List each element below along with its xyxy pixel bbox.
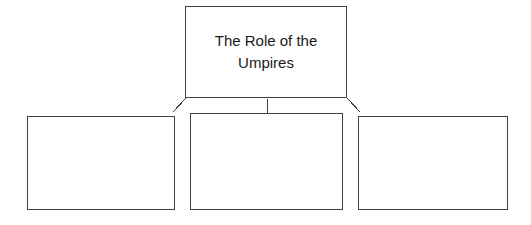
diagram-canvas: The Role of the Umpires [0, 0, 531, 225]
connector-root-to-branch-1 [173, 99, 186, 113]
node-branch-3[interactable] [358, 116, 508, 210]
connector-root-to-branch-3 [348, 99, 361, 113]
node-root[interactable]: The Role of the Umpires [185, 6, 347, 98]
node-root-label: The Role of the Umpires [209, 30, 324, 74]
node-branch-1[interactable] [27, 116, 175, 210]
node-branch-2[interactable] [190, 113, 343, 210]
